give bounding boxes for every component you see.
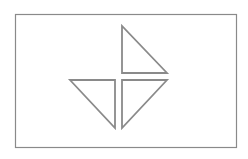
diagram-canvas [0, 0, 248, 159]
